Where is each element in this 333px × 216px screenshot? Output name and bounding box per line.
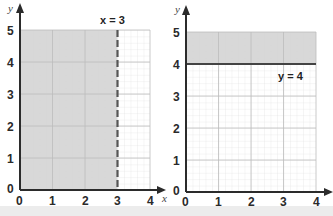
svg-text:3: 3 — [7, 88, 14, 102]
graph-figure: y x x = 3 5 4 3 2 1 0 0 1 2 3 4 — [0, 0, 333, 216]
svg-text:0: 0 — [7, 182, 14, 196]
svg-text:3: 3 — [173, 90, 180, 104]
footer-band — [0, 206, 333, 216]
svg-text:2: 2 — [173, 122, 180, 136]
svg-text:4: 4 — [7, 56, 14, 70]
svg-text:5: 5 — [173, 26, 180, 40]
y-axis-arrow-icon — [16, 3, 24, 13]
y-tick-labels: 5 4 3 2 1 0 — [7, 24, 14, 196]
y-axis-arrow-icon — [182, 5, 190, 15]
svg-text:1: 1 — [173, 154, 180, 168]
boundary-annotation: x = 3 — [100, 14, 125, 26]
shaded-region — [20, 30, 118, 190]
svg-text:0: 0 — [173, 184, 180, 198]
x-axis-label: x — [161, 192, 167, 204]
x-axis-arrow-icon — [324, 188, 333, 196]
svg-text:4: 4 — [173, 58, 180, 72]
left-chart: y x x = 3 5 4 3 2 1 0 0 1 2 3 4 — [7, 2, 167, 208]
y-tick-labels: 5 4 3 2 1 0 — [173, 26, 180, 198]
y-axis-label: y — [174, 3, 180, 15]
svg-text:1: 1 — [7, 152, 14, 166]
svg-text:2: 2 — [7, 120, 14, 134]
boundary-annotation: y = 4 — [278, 70, 304, 82]
svg-text:5: 5 — [7, 24, 14, 38]
y-axis-label: y — [7, 2, 13, 14]
right-chart: y y = 4 5 4 3 2 1 0 0 1 2 3 4 — [173, 3, 333, 209]
